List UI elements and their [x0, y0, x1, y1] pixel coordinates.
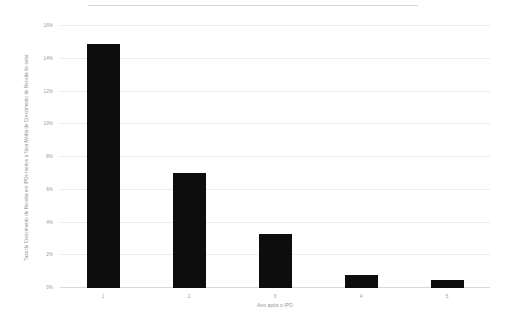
bar-year-1[interactable] [87, 44, 120, 288]
x-tick-label-5: 5 [446, 294, 449, 299]
bar-series: 1 2 3 4 5 [60, 26, 490, 288]
x-tick-label-2: 2 [188, 294, 191, 299]
bar-slot-5: 5 [404, 26, 490, 288]
bar-year-2[interactable] [173, 173, 206, 288]
y-axis-title: Taxa de Crescimento de Receita em IPOs m… [21, 26, 31, 288]
bar-year-4[interactable] [345, 275, 378, 288]
bar-year-3[interactable] [259, 234, 292, 288]
bar-slot-2: 2 [146, 26, 232, 288]
bar-slot-3: 3 [232, 26, 318, 288]
y-tick-label-8: 8% [46, 154, 53, 159]
y-tick-label-4: 4% [46, 219, 53, 224]
y-tick-label-2: 2% [46, 252, 53, 257]
x-axis-title: Ano após o IPO [60, 303, 490, 308]
bar-slot-4: 4 [318, 26, 404, 288]
y-axis-title-label: Taxa de Crescimento de Receita em IPOs m… [24, 54, 29, 261]
x-tick-label-1: 1 [102, 294, 105, 299]
bar-slot-1: 1 [60, 26, 146, 288]
y-tick-label-12: 12% [44, 88, 54, 93]
bar-chart-figure: Taxa de Crescimento de Receita em IPOs m… [0, 0, 505, 325]
x-tick-label-4: 4 [360, 294, 363, 299]
top-divider-rule [88, 5, 418, 6]
y-tick-label-10: 10% [44, 121, 54, 126]
bar-year-5[interactable] [431, 280, 464, 288]
y-tick-label-0: 0% [46, 285, 53, 290]
plot-area: 16% 14% 12% 10% 8% 6% 4% 2% [60, 26, 490, 288]
y-tick-label-16: 16% [44, 23, 54, 28]
y-tick-label-6: 6% [46, 186, 53, 191]
y-tick-label-14: 14% [44, 55, 54, 60]
x-tick-label-3: 3 [274, 294, 277, 299]
